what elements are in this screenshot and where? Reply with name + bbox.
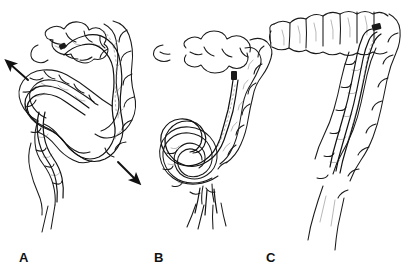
panel-a-colonoscope	[25, 31, 123, 202]
panel-c-colonoscope	[330, 23, 382, 173]
panel-c-scope-tip	[371, 23, 381, 31]
colonoscopy-loop-figure: A B C	[0, 0, 410, 273]
panel-c-colon-wall	[270, 12, 401, 251]
panel-label-c: C	[266, 251, 276, 264]
panel-b-scope-tip	[231, 71, 237, 80]
panel-b-colonoscope	[161, 71, 238, 215]
panel-a-scope-tip	[58, 42, 67, 50]
panel-a-artwork	[10, 21, 136, 232]
panel-b-artwork	[154, 31, 272, 229]
arrow-stretch-inferior	[118, 162, 136, 180]
arrow-stretch-superior	[10, 64, 28, 80]
panel-c-artwork	[270, 12, 401, 251]
panel-b-colon-wall	[154, 31, 272, 229]
panel-label-a: A	[19, 251, 29, 264]
figure-artwork	[0, 0, 410, 273]
panel-label-b: B	[154, 251, 164, 264]
